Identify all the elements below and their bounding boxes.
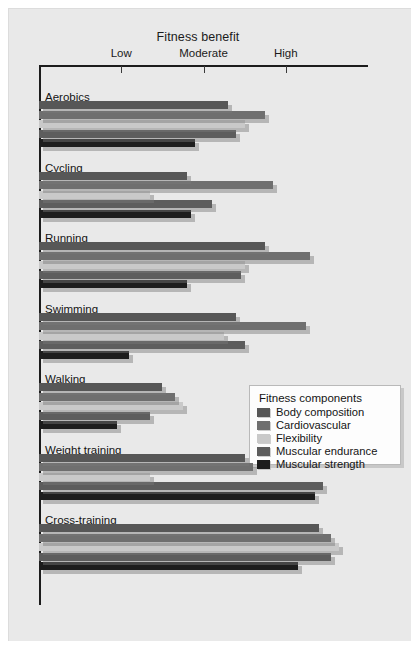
legend-swatch-icon (257, 434, 270, 443)
legend-swatch-icon (257, 408, 270, 417)
bar (39, 200, 212, 208)
bar (39, 139, 195, 147)
bar-group: Aerobics (39, 77, 368, 148)
bar (39, 280, 187, 288)
bar (39, 111, 265, 119)
bar-group: Running (39, 218, 368, 289)
bar (39, 463, 253, 471)
tick-label-high: High (274, 47, 298, 59)
legend-swatch-icon (257, 447, 270, 456)
legend-title: Fitness components (259, 392, 394, 404)
legend-entry: Body composition (257, 406, 394, 418)
legend-label: Cardiovascular (276, 419, 351, 431)
bar (39, 191, 150, 199)
bar (39, 473, 150, 481)
chart-title: Fitness benefit (0, 30, 418, 44)
bar-group: Cross-training (39, 500, 368, 571)
bar (39, 534, 331, 542)
legend-entries: Body compositionCardiovascularFlexibilit… (257, 406, 394, 470)
bar (39, 492, 315, 500)
bar (39, 120, 245, 128)
scrollbar-track[interactable] (0, 652, 418, 666)
bar (39, 261, 245, 269)
legend-label: Muscular endurance (276, 445, 377, 457)
bar (39, 271, 241, 279)
bar (39, 172, 187, 180)
tick-label-moderate: Moderate (179, 47, 228, 59)
bar (39, 562, 298, 570)
bar (39, 101, 228, 109)
bar (39, 383, 162, 391)
legend-entry: Muscular endurance (257, 445, 394, 457)
plot-area: AerobicsCyclingRunningSwimmingWalkingWei… (39, 67, 368, 605)
bar (39, 313, 236, 321)
bar-group: Swimming (39, 289, 368, 360)
legend-label: Flexibility (276, 432, 322, 444)
legend-swatch-icon (257, 460, 270, 469)
legend-entry: Flexibility (257, 432, 394, 444)
bar (39, 322, 306, 330)
bar (39, 252, 310, 260)
bar (39, 543, 339, 551)
bar (39, 421, 117, 429)
legend-label: Body composition (276, 406, 364, 418)
bar (39, 351, 129, 359)
legend-label: Muscular strength (276, 458, 365, 470)
tick-label-low: Low (111, 47, 132, 59)
bar (39, 130, 236, 138)
bar (39, 524, 319, 532)
bar (39, 402, 183, 410)
legend-swatch-icon (257, 421, 270, 430)
bar (39, 412, 150, 420)
bar (39, 242, 265, 250)
bar (39, 393, 175, 401)
chart-page: Fitness benefit LowModerateHigh Aerobics… (0, 0, 418, 666)
bar-group: Cycling (39, 148, 368, 219)
bar (39, 341, 245, 349)
bar (39, 332, 224, 340)
legend-entry: Muscular strength (257, 458, 394, 470)
bar (39, 181, 273, 189)
chart-title-text: Fitness benefit (157, 30, 240, 44)
bar (39, 210, 191, 218)
bar (39, 482, 323, 490)
bar (39, 454, 245, 462)
legend: Fitness components Body compositionCardi… (249, 385, 401, 465)
legend-entry: Cardiovascular (257, 419, 394, 431)
bar (39, 553, 331, 561)
